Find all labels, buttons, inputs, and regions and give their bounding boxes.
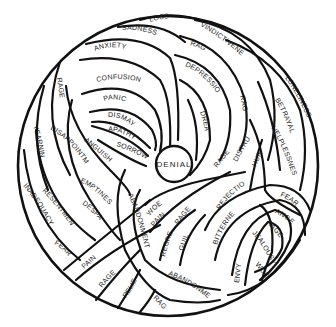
- emotion-ball-diagram: DENIAL LOSS SADNESS ANXIETY CONFUSION PA…: [0, 0, 336, 327]
- center-label-denial: DENIAL: [157, 160, 192, 169]
